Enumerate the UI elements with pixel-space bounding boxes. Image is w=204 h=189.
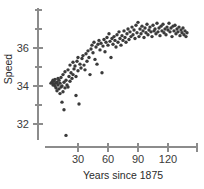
data-point	[124, 41, 127, 44]
data-point	[70, 77, 73, 80]
data-point	[127, 38, 130, 41]
data-point	[138, 27, 141, 30]
data-point	[137, 35, 140, 38]
data-point	[68, 80, 71, 83]
data-point	[116, 41, 119, 44]
data-point	[74, 94, 77, 97]
data-point	[177, 25, 180, 28]
data-point	[105, 36, 108, 39]
data-point	[149, 30, 152, 33]
data-point	[101, 44, 104, 47]
data-point	[60, 100, 63, 103]
data-point	[150, 35, 153, 38]
data-point	[111, 43, 114, 46]
data-point	[86, 49, 89, 52]
data-point	[178, 34, 181, 37]
data-point	[91, 51, 94, 54]
data-point	[158, 34, 161, 37]
data-point	[90, 43, 93, 46]
data-point	[155, 22, 158, 25]
data-point	[58, 81, 61, 84]
data-point	[125, 32, 128, 35]
data-point	[122, 29, 125, 32]
data-point	[84, 52, 87, 55]
data-point	[71, 61, 74, 64]
data-point	[82, 63, 85, 66]
plot-area: 323436Speed306090120Years since 1875	[0, 0, 204, 189]
x-axis-tick-label: 60	[102, 153, 114, 165]
data-point	[75, 60, 78, 63]
data-point	[79, 66, 82, 69]
data-point	[68, 63, 71, 66]
data-point	[181, 26, 184, 29]
data-point	[108, 40, 111, 43]
data-point	[153, 27, 156, 30]
data-point	[60, 84, 63, 87]
data-point	[103, 50, 106, 53]
data-point	[71, 73, 74, 76]
data-point	[136, 21, 139, 24]
data-point	[78, 62, 81, 65]
data-point	[135, 31, 138, 34]
data-point	[119, 43, 122, 46]
data-point	[67, 75, 70, 78]
data-point	[106, 43, 109, 46]
data-point	[170, 35, 173, 38]
data-point	[139, 32, 142, 35]
data-point	[94, 45, 97, 48]
data-point	[120, 34, 123, 37]
data-point	[176, 30, 179, 33]
data-point	[112, 35, 115, 38]
x-axis-tick-label: 30	[72, 153, 84, 165]
data-point	[114, 45, 117, 48]
data-point	[102, 38, 105, 41]
data-point	[131, 33, 134, 36]
data-point	[61, 90, 64, 93]
data-point	[81, 54, 84, 57]
data-point	[142, 36, 145, 39]
data-point	[148, 25, 151, 28]
data-point	[97, 39, 100, 42]
data-point	[123, 36, 126, 39]
data-point	[99, 42, 102, 45]
x-axis-title: Years since 1875	[83, 169, 163, 181]
data-point	[145, 23, 148, 26]
data-point	[100, 71, 103, 74]
data-point	[133, 37, 136, 40]
data-point	[161, 23, 164, 26]
data-point	[88, 73, 91, 76]
x-axis-tick-label: 90	[132, 153, 144, 165]
data-point	[107, 32, 110, 35]
data-point	[85, 60, 88, 63]
data-point	[76, 56, 79, 59]
data-point	[66, 85, 69, 88]
data-point	[140, 24, 143, 27]
data-point	[104, 41, 107, 44]
data-point	[113, 39, 116, 42]
data-point	[146, 33, 149, 36]
x-axis-tick-label: 120	[159, 153, 177, 165]
data-point	[89, 47, 92, 50]
data-point	[173, 24, 176, 27]
data-point	[121, 39, 124, 42]
scatter-chart: 323436Speed306090120Years since 1875	[0, 0, 204, 189]
data-point	[141, 29, 144, 32]
data-point	[167, 22, 170, 25]
data-point	[76, 69, 79, 72]
data-point	[74, 75, 77, 78]
data-point	[64, 134, 67, 137]
data-point	[156, 30, 159, 33]
data-point	[62, 108, 65, 111]
data-point	[134, 24, 137, 27]
data-point	[132, 28, 135, 31]
data-point	[126, 27, 129, 30]
data-point	[185, 31, 188, 34]
data-point	[128, 30, 131, 33]
data-point	[73, 64, 76, 67]
data-point	[77, 102, 80, 105]
data-point	[98, 48, 101, 51]
y-axis-tick-label: 36	[17, 42, 29, 54]
data-point	[168, 30, 171, 33]
data-point-group	[49, 21, 188, 137]
data-point	[61, 73, 64, 76]
